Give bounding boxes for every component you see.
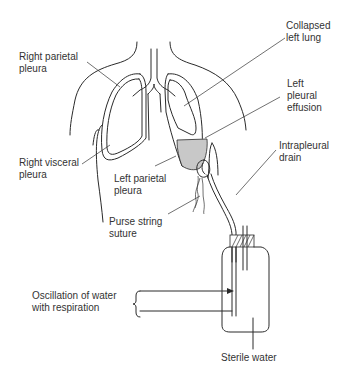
right-lung	[101, 74, 146, 160]
label-sterile-water: Sterile water	[221, 352, 277, 364]
trachea	[133, 49, 175, 140]
label-right-parietal-pleura: Right parietal pleura	[19, 51, 78, 75]
left-lung	[165, 74, 207, 170]
label-left-pleural-effusion: Left pleural effusion	[287, 78, 322, 114]
chest-drain-diagram: Right parietal pleura Right visceral ple…	[0, 0, 351, 376]
label-oscillation: Oscillation of water with respiration	[32, 290, 116, 314]
oscillation-indicator	[133, 288, 234, 317]
label-collapsed-left-lung: Collapsed left lung	[286, 20, 330, 44]
label-right-visceral-pleura: Right visceral pleura	[19, 157, 79, 181]
label-intrapleural-drain: Intrapleural drain	[279, 140, 329, 164]
label-purse-string-suture: Purse string suture	[109, 216, 162, 240]
sterile-water-bottle	[222, 226, 269, 349]
label-left-parietal-pleura: Left parietal pleura	[114, 173, 166, 197]
